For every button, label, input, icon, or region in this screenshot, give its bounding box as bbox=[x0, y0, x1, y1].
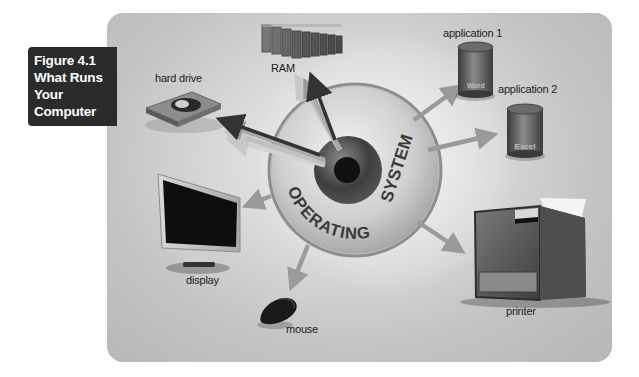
display-icon bbox=[158, 174, 240, 274]
word-label: Word bbox=[467, 82, 485, 89]
ram-icon bbox=[262, 24, 342, 58]
mouse-label: mouse bbox=[286, 323, 318, 335]
application-2-icon: Excel bbox=[505, 104, 545, 161]
diagram-graphics: SYSTEM OPERATING Word bbox=[0, 0, 639, 377]
printer-icon bbox=[460, 198, 610, 308]
application-1-icon: Word bbox=[455, 42, 495, 101]
application-1-label: application 1 bbox=[443, 27, 502, 39]
excel-label: Excel bbox=[515, 142, 536, 151]
ram-label: RAM bbox=[271, 62, 295, 74]
hard-drive-label: hard drive bbox=[155, 72, 202, 84]
application-2-label: application 2 bbox=[498, 83, 557, 95]
hard-drive-icon bbox=[145, 92, 225, 133]
printer-label: printer bbox=[506, 305, 536, 317]
display-label: display bbox=[186, 274, 219, 286]
